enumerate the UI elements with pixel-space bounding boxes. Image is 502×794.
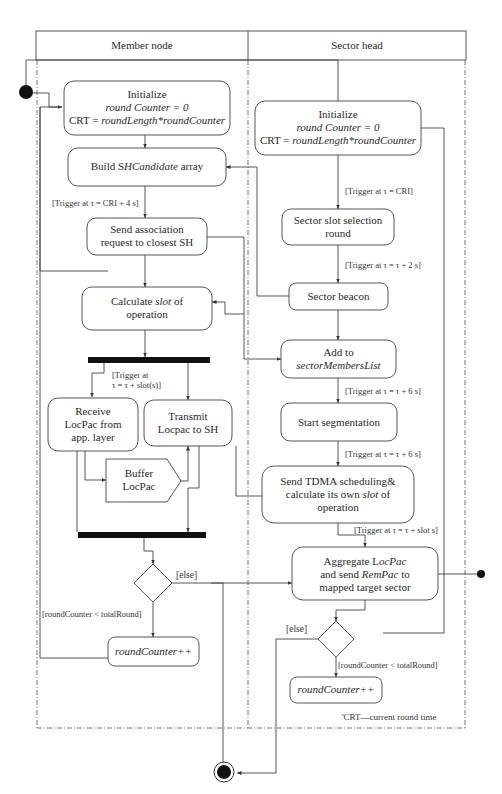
member-else-guard: [else] xyxy=(176,570,197,580)
aggregate-locpac-text: Aggregate LocPac and send RemPac to mapp… xyxy=(292,555,438,594)
join-bar xyxy=(78,532,206,538)
sector-increment-text: roundCounter++ xyxy=(290,683,382,696)
trigger-2s-label: [Trigger at τ = τ + 2 s] xyxy=(345,260,421,270)
member-increment-text: roundCounter++ xyxy=(108,645,199,658)
member-decision-diamond xyxy=(134,564,172,602)
sector-loop-guard: [roundCounter < totalRound] xyxy=(338,660,438,670)
start-segmentation-text: Start segmentation xyxy=(281,416,397,429)
transmit-locpac-text: Transmit Locpac to SH xyxy=(144,410,232,436)
receive-locpac-text: Receive LocPac from app. layer xyxy=(48,405,138,444)
member-init-text: Initialize round Counter = 0 CRT = round… xyxy=(64,88,230,127)
sector-else-guard: [else] xyxy=(286,624,307,634)
footnote: 'CRT—current round time xyxy=(342,712,437,722)
lane-header-member: Member node xyxy=(36,39,248,51)
sector-beacon-text: Sector beacon xyxy=(289,290,388,303)
lane-header-sector: Sector head xyxy=(248,39,466,51)
calculate-slot-text: Calculate slot of operation xyxy=(82,295,212,321)
trigger-slot-s-label: [Trigger at τ = τ + slot s] xyxy=(354,525,438,535)
sector-decision-diamond xyxy=(318,621,354,657)
sector-slot-selection-text: Sector slot selection round xyxy=(282,214,394,240)
send-association-text: Send association request to closest SH xyxy=(87,223,207,249)
build-candidate-text: Build SHCandidate array xyxy=(68,160,226,173)
trigger-6s-b-label: [Trigger at τ = τ + 6 s] xyxy=(345,449,421,459)
trigger-cri-label: [Trigger at τ = CRI] xyxy=(345,186,413,196)
send-tdma-text: Send TDMA scheduling& calculate its own … xyxy=(262,475,414,514)
trigger-build-label: [Trigger at τ = CRI + 4 s] xyxy=(52,198,139,208)
trigger-6s-a-label: [Trigger at τ = τ + 6 s] xyxy=(345,386,421,396)
member-loop-guard: [roundCounter < totalRound] xyxy=(42,609,142,619)
buffer-locpac-text: Buffer LocPac xyxy=(106,467,172,493)
initial-node xyxy=(19,85,33,99)
sector-flow-end-node xyxy=(477,570,485,578)
sector-init-text: Initialize round Counter = 0 CRT = round… xyxy=(255,108,421,147)
trigger-slot-label: [Trigger at τ = τ + slot(s)] xyxy=(112,370,161,390)
fork-bar xyxy=(88,357,210,363)
add-members-list-text: Add to sectorMembersList xyxy=(281,346,396,372)
